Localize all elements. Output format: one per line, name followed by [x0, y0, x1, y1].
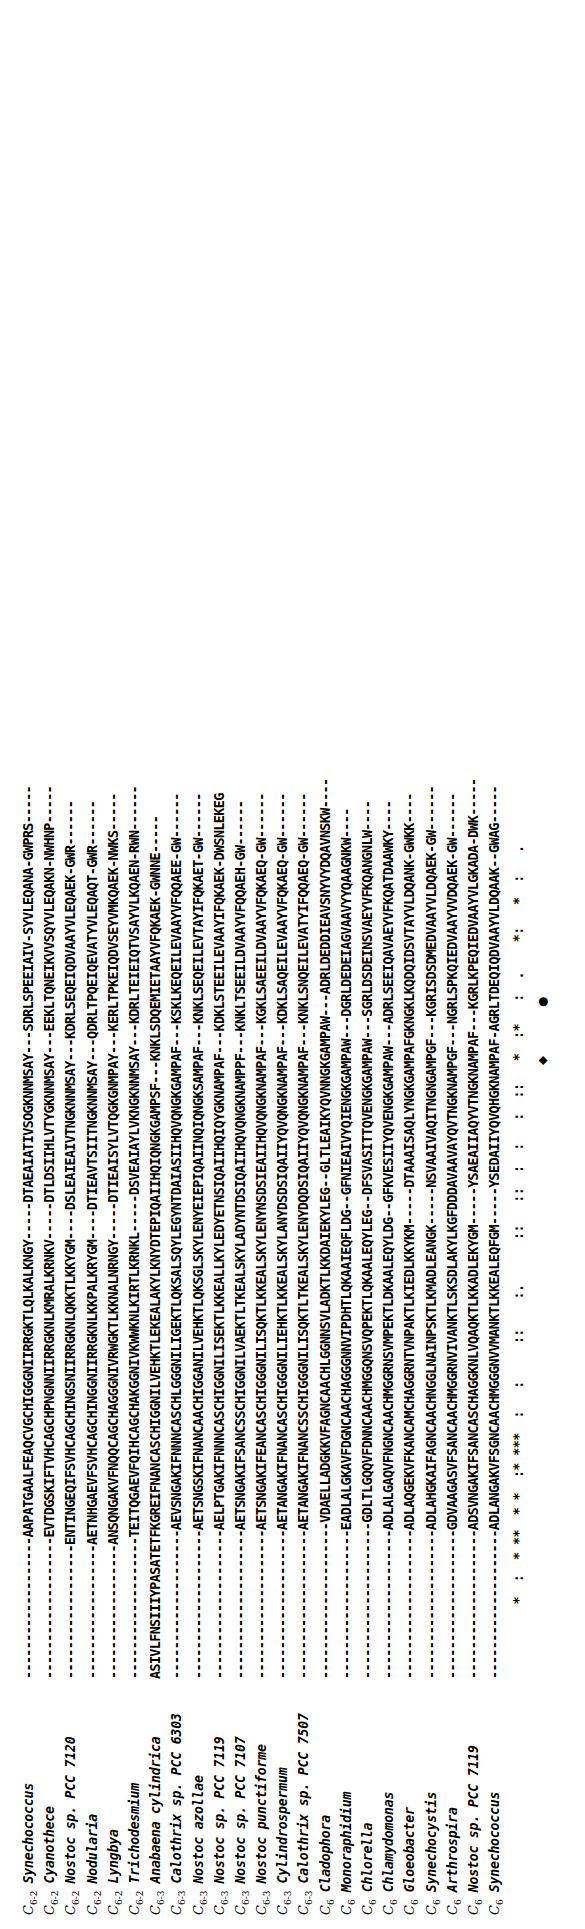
- sequence-text: --------------------ADLANGAKVFSGNCAACHMG…: [488, 786, 501, 1679]
- protein-group-subscript: 6: [431, 1899, 441, 1905]
- sequence-text: --------------------AETSNGAKIFSANCSSCHIG…: [234, 801, 247, 1679]
- sequence-text: --------------------ADLAQGEKVFKANCAMCHAG…: [403, 793, 416, 1679]
- protein-group-label: C6-3: [254, 1891, 269, 1915]
- row-label: C6Monoraphidium: [340, 1679, 357, 1915]
- protein-group-label: C6-3: [212, 1891, 227, 1915]
- row-label: C6-2Nostoc sp. PCC 7120: [64, 1679, 81, 1915]
- conservation-row: * : * ** * * :* *** : : :: :. :: :: : : …: [512, 0, 535, 1915]
- row-label: C6-3Nostoc punctiforme: [255, 1679, 272, 1915]
- row-label: C6-3Nostoc sp. PCC 7119: [213, 1679, 230, 1915]
- protein-group-label: C6: [360, 1899, 375, 1915]
- protein-group-subscript: 6-2: [71, 1891, 81, 1906]
- alignment-row: C6-3Nostoc sp. PCC 7119 ----------------…: [213, 0, 234, 1915]
- protein-group-subscript: 6-2: [29, 1891, 39, 1906]
- row-label: C6-3Nostoc azollae: [192, 1679, 209, 1915]
- organism-name: Cylindrospermum: [275, 1767, 290, 1883]
- alignment-row: C6-3Nostoc azollae --------------------A…: [192, 0, 213, 1915]
- protein-group-label: C6-2: [21, 1891, 36, 1915]
- alignment-row: C6-2Cyanothece -------------------EVTDGS…: [43, 0, 64, 1915]
- sequence-text: ------------------ENTINGEQIFSVHCAGCHINGS…: [64, 801, 77, 1679]
- sequence-text: --------------------ADLALGAQVFNGNCAACHMG…: [382, 801, 395, 1679]
- protein-group-subscript: 6: [452, 1899, 462, 1905]
- alignment-row: C6-3Nostoc punctiforme -----------------…: [255, 0, 276, 1915]
- alignment-row: C6Arthrospira --------------------GDVAAG…: [446, 0, 467, 1915]
- alignment-row: C6-3Calothrix sp. PCC 7507 -------------…: [297, 0, 318, 1915]
- alignment-row: C6Synechocystis --------------------ADLA…: [425, 0, 446, 1915]
- alignment-row: C6-2Nostoc sp. PCC 7120 ----------------…: [64, 0, 85, 1915]
- protein-group-subscript: 6-3: [262, 1891, 272, 1906]
- protein-group-subscript: 6-2: [135, 1891, 145, 1906]
- organism-name: Anabaena cylindrica: [148, 1736, 163, 1883]
- row-label: C6-3Nostoc sp. PCC 7107: [234, 1679, 251, 1915]
- organism-name: Nostoc sp. PCC 7107: [233, 1736, 248, 1883]
- alignment-row: C6Gloeobacter --------------------ADLAQG…: [403, 0, 424, 1915]
- protein-group-label: C6-3: [275, 1891, 290, 1915]
- organism-name: Lyngbya: [106, 1829, 121, 1883]
- heme-ligand-marker-row: ◆ ●: [535, 0, 555, 1915]
- protein-group-subscript: 6-2: [92, 1891, 102, 1906]
- row-label: C6Arthrospira: [446, 1679, 463, 1915]
- rotated-figure-canvas: C6-2Synechococcus -------------------AAP…: [0, 0, 585, 1929]
- protein-group-label: C6: [424, 1899, 439, 1915]
- protein-group-subscript: 6-3: [177, 1891, 187, 1906]
- organism-name: Nostoc sp. PCC 7119: [212, 1736, 227, 1883]
- organism-name: Calothrix sp. PCC 7507: [296, 1713, 311, 1883]
- protein-group-label: C6: [381, 1899, 396, 1915]
- alignment-row: C6-3Anabaena cylindrica ASIVLFNSIIIYPASA…: [149, 0, 170, 1915]
- alignment-row: C6-2Trichodesmium -------------------TEI…: [128, 0, 149, 1915]
- sequence-text: ---------------------GDLTLGQQVFDNNCAACHM…: [361, 801, 374, 1679]
- row-label: C6-2Cyanothece: [43, 1679, 60, 1915]
- protein-group-subscript: 6: [325, 1899, 335, 1905]
- row-label: C6Chlorella: [361, 1679, 378, 1915]
- sequence-text: ---------------------VDAELLADGKKVFAGNCAA…: [319, 779, 332, 1679]
- conservation-symbols: * : * ** * * :* *** : : :: :. :: :: : : …: [512, 786, 525, 1679]
- organism-name: Chlamydomonas: [381, 1792, 396, 1893]
- protein-group-subscript: 6-2: [50, 1891, 60, 1906]
- alignment-row: C6-2Nodularia ------------------AETNHGAE…: [86, 0, 107, 1915]
- row-label: C6-2Trichodesmium: [128, 1679, 145, 1915]
- row-label: C6Chlamydomonas: [382, 1679, 399, 1915]
- alignment-row: C6Chlamydomonas --------------------ADLA…: [382, 0, 403, 1915]
- organism-name: Nostoc azollae: [191, 1775, 206, 1883]
- organism-name: Arthrospira: [445, 1807, 460, 1892]
- row-label: C6Synechococcus: [488, 1679, 505, 1915]
- organism-name: Nostoc sp. PCC 7119: [466, 1745, 481, 1892]
- organism-name: Cladophora: [318, 1815, 333, 1892]
- protein-group-subscript: 6: [410, 1899, 420, 1905]
- organism-name: Cyanothece: [42, 1806, 57, 1883]
- sequence-text: --------------------AELPTGAKIFNNNCASCHIG…: [213, 793, 226, 1679]
- row-label: C6-3Calothrix sp. PCC 6303: [170, 1679, 187, 1915]
- alignment-row: C6Chlorella ---------------------GDLTLGQ…: [361, 0, 382, 1915]
- organism-name: Synechococcus: [21, 1783, 36, 1884]
- sequence-text: --------------------EADLALGKAVFDGNCAACHA…: [340, 808, 353, 1679]
- sequence-text: --------------------ADSVNGAKIFSANCASCHAG…: [467, 779, 480, 1679]
- row-label: C6-3Anabaena cylindrica: [149, 1679, 166, 1915]
- organism-name: Nostoc sp. PCC 7120: [63, 1736, 78, 1883]
- protein-group-subscript: 6-3: [219, 1891, 229, 1906]
- protein-group-subscript: 6: [368, 1899, 378, 1905]
- heme-ligand-markers: ◆ ●: [535, 661, 550, 1679]
- sequence-text: -------------------TEITQGAEVFQIHCAGCHAKG…: [128, 786, 141, 1679]
- alignment-row: C6-3Nostoc sp. PCC 7107 ----------------…: [234, 0, 255, 1915]
- row-label: C6-3Cylindrospermum: [276, 1679, 293, 1915]
- protein-group-label: C6-2: [63, 1891, 78, 1915]
- sequence-text: --------------------AETANGAKIFNANCSSCHIG…: [297, 793, 310, 1679]
- sequence-text: --------------------AETSNGSKIFNANCAACHIG…: [192, 793, 205, 1679]
- alignment-row: C6Monoraphidium --------------------EADL…: [340, 0, 361, 1915]
- organism-name: Synechocystis: [424, 1792, 439, 1893]
- alignment-row: C6-3Calothrix sp. PCC 6303 -------------…: [170, 0, 191, 1915]
- protein-group-label: C6: [339, 1899, 354, 1915]
- sequence-text: --------------------AETSNGAKIFEANCASCHIG…: [255, 793, 268, 1679]
- protein-group-subscript: 6: [474, 1899, 484, 1905]
- protein-group-subscript: 6-3: [283, 1891, 293, 1906]
- alignment-row: C6Nostoc sp. PCC 7119 ------------------…: [467, 0, 488, 1915]
- row-label: C6Gloeobacter: [403, 1679, 420, 1915]
- sequence-text: ASIVLFNSIIIYPASATETFKGREIFNANCASCHIGGNIL…: [149, 816, 162, 1679]
- protein-group-label: C6-3: [148, 1891, 163, 1915]
- row-label: C6-2Nodularia: [86, 1679, 103, 1915]
- protein-group-label: C6-2: [85, 1891, 100, 1915]
- organism-name: Chlorella: [360, 1823, 375, 1893]
- organism-name: Calothrix sp. PCC 6303: [169, 1713, 184, 1883]
- sequence-text: --------------------ADLAHGKAIFAGNCAACHNG…: [425, 786, 438, 1679]
- sequence-text: ------------------AETNHGAEVFSVHCAGCHINGG…: [86, 801, 99, 1679]
